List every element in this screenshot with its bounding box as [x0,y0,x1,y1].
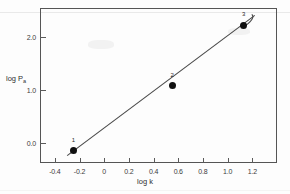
y-axis-tick [40,37,46,38]
x-axis-tick-label: 1.0 [223,168,232,175]
x-axis-tick [80,158,81,163]
y-axis-title: log Pa [6,74,26,83]
y-axis-tick [40,143,46,144]
y-axis-title-base: log P [6,74,23,83]
y-axis-title-subscript: a [23,78,26,84]
x-axis-tick [178,158,179,163]
data-point [169,82,176,89]
scan-artifact-line [0,190,290,191]
x-axis-tick [228,158,229,163]
plot-area [40,8,277,163]
fit-line-svg [40,8,277,163]
x-axis-tick-label: 0.2 [124,168,133,175]
x-axis-tick-label: -0.2 [74,168,85,175]
figure-container: log k log Pa -0.4-0.200.20.40.60.81.01.2… [0,0,290,194]
x-axis-tick-label: 1.2 [248,168,257,175]
regression-line [67,15,255,155]
x-axis-tick [129,158,130,163]
x-axis-tick [104,158,105,163]
x-axis-tick-label: 0 [102,168,106,175]
y-axis-tick-label: 0.0 [18,139,36,146]
x-axis-tick [203,158,204,163]
x-axis-tick-label: 0.8 [198,168,207,175]
data-point-label: 3 [242,11,245,17]
x-axis-tick [154,158,155,163]
x-axis-tick [55,158,56,163]
x-axis-tick-label: -0.4 [49,168,60,175]
y-axis-tick-label: 1.0 [18,86,36,93]
x-axis-tick-label: 0.4 [149,168,158,175]
data-point-label: 2 [170,72,173,78]
x-axis-tick-label: 0.6 [174,168,183,175]
x-axis-title: log k [0,177,290,186]
x-axis-tick [252,158,253,163]
y-axis-tick-label: 2.0 [18,34,36,41]
y-axis-tick [40,90,46,91]
data-point-label: 1 [72,137,75,143]
